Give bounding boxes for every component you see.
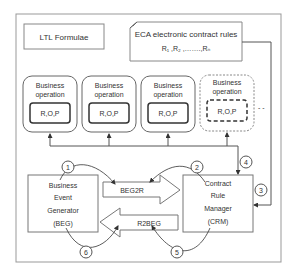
eca-rules-list: R₁ ,R₂ ,…….,Rₙ bbox=[162, 45, 211, 52]
rop-label: R,O,P bbox=[40, 110, 59, 117]
step-number: 3 bbox=[259, 187, 263, 194]
more-operations-ellipsis: - - bbox=[258, 104, 265, 111]
rop-label: R,O,P bbox=[99, 110, 118, 117]
eca-rules-box: ECA electronic contract rules R₁ ,R₂ ,……… bbox=[130, 22, 242, 61]
eca-rules-title: ECA electronic contract rules bbox=[135, 30, 238, 39]
business-operation-title: Business bbox=[213, 79, 242, 86]
step-number: 4 bbox=[244, 159, 248, 166]
beg-label: Event bbox=[54, 194, 72, 201]
step-number: 2 bbox=[195, 164, 199, 171]
step-number: 5 bbox=[175, 249, 179, 256]
step-5-marker: 5 bbox=[171, 246, 183, 258]
beg2r-block-arrow: BEG2R bbox=[103, 175, 180, 204]
business-operation-4-dashed: Business operation R,O,P bbox=[200, 75, 254, 131]
step-number: 6 bbox=[84, 249, 88, 256]
business-operation-3: Business operation R,O,P bbox=[141, 76, 195, 132]
beg-label: Business bbox=[49, 182, 78, 189]
ltl-formulae-label: LTL Formulae bbox=[40, 33, 89, 42]
rop-label: R,O,P bbox=[217, 108, 236, 115]
contract-monitoring-diagram: LTL Formulae ECA electronic contract rul… bbox=[0, 0, 296, 278]
business-operation-1: Business operation R,O,P bbox=[23, 76, 77, 132]
crm-label: Rule bbox=[211, 192, 226, 199]
rop-label: R,O,P bbox=[158, 110, 177, 117]
r2beg-label: R2BEG bbox=[137, 220, 161, 227]
step-6-marker: 6 bbox=[80, 246, 92, 258]
business-operation-title: operation bbox=[94, 91, 123, 99]
step-3-marker: 3 bbox=[255, 184, 267, 196]
beg2r-label: BEG2R bbox=[120, 187, 144, 194]
beg-label: Generator bbox=[47, 207, 79, 214]
step-2-marker: 2 bbox=[191, 161, 203, 173]
business-operation-title: Business bbox=[154, 82, 183, 89]
business-operation-title: Business bbox=[95, 82, 124, 89]
business-operation-title: Business bbox=[36, 82, 65, 89]
step-4-marker: 4 bbox=[240, 156, 252, 168]
crm-label: Contract bbox=[205, 180, 232, 187]
contract-rule-manager-box: Contract Rule Manager (CRM) bbox=[183, 175, 253, 232]
beg-label: (BEG) bbox=[53, 220, 72, 228]
business-operation-title: operation bbox=[212, 88, 241, 96]
business-operation-title: operation bbox=[153, 91, 182, 99]
operations-bus bbox=[50, 133, 238, 174]
ltl-formulae-box: LTL Formulae bbox=[24, 24, 104, 49]
crm-label: (CRM) bbox=[208, 218, 229, 226]
step-number: 1 bbox=[66, 164, 70, 171]
business-operation-2: Business operation R,O,P bbox=[82, 76, 136, 132]
business-operation-title: operation bbox=[35, 91, 64, 99]
step-1-marker: 1 bbox=[62, 161, 74, 173]
crm-label: Manager bbox=[204, 205, 232, 213]
r2beg-block-arrow: R2BEG bbox=[100, 208, 178, 237]
business-event-generator-box: Business Event Generator (BEG) bbox=[28, 175, 98, 232]
